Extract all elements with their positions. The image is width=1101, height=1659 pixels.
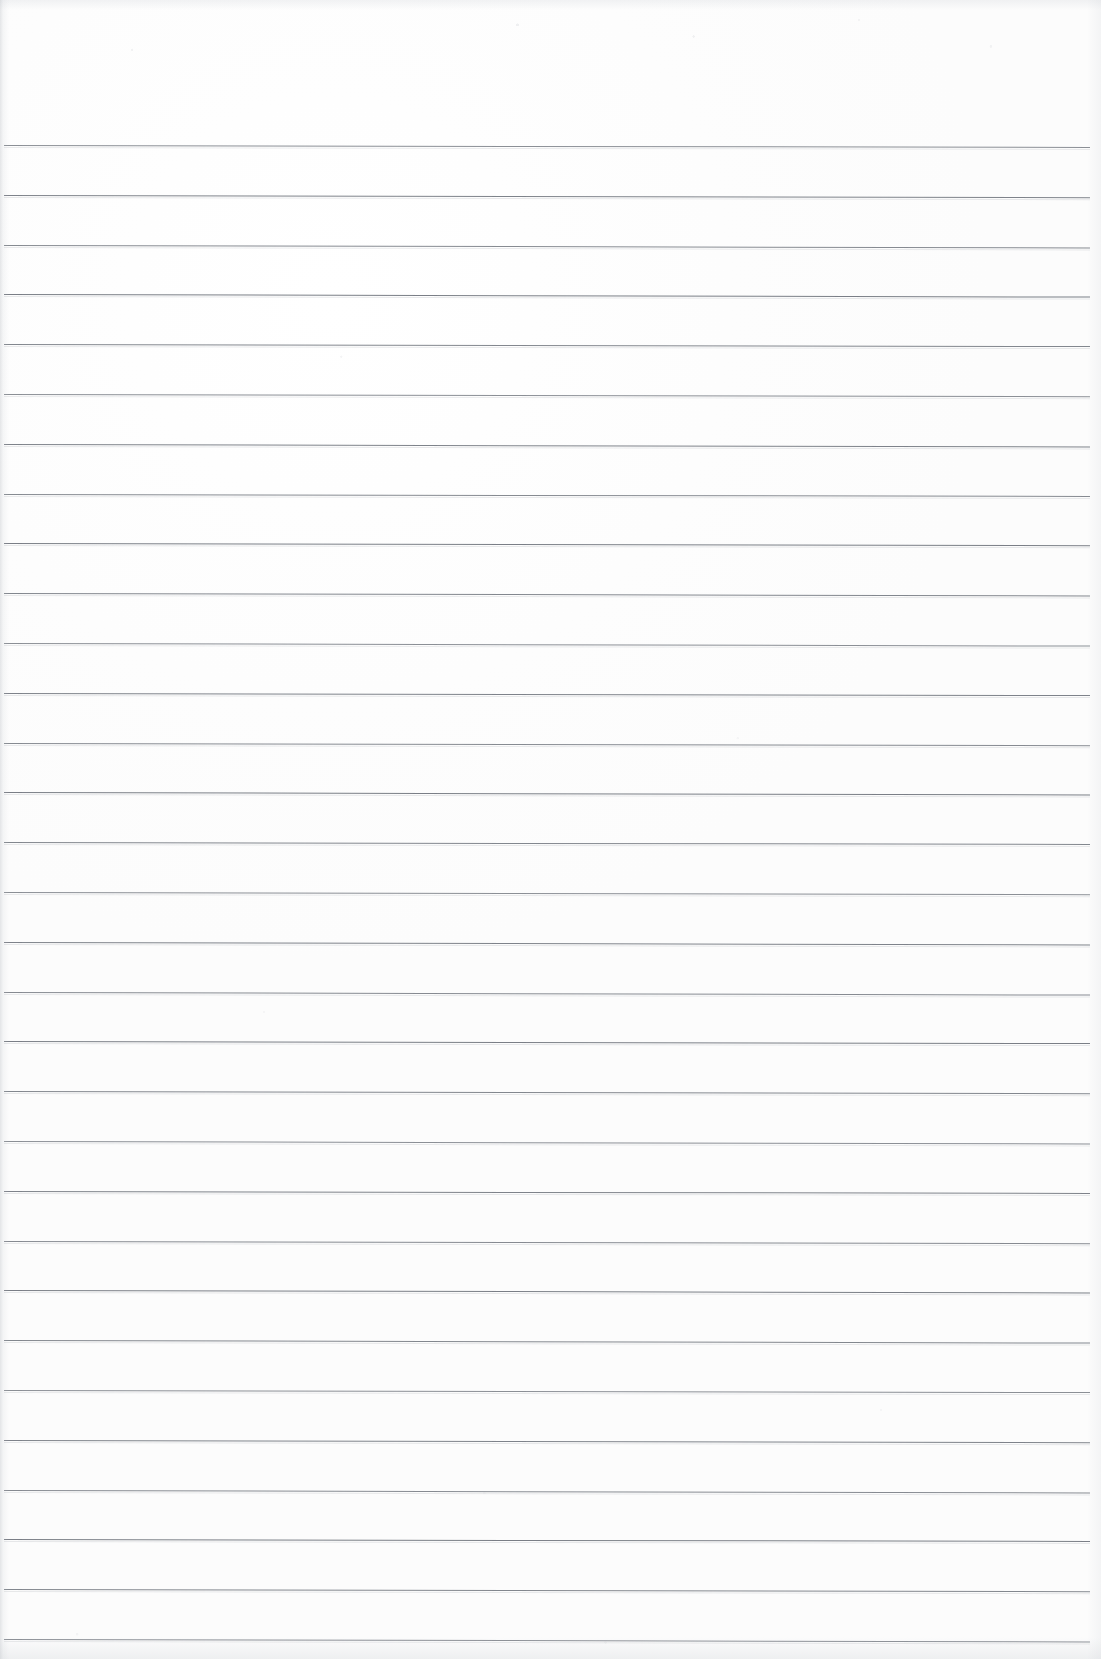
ruled-line [4,145,1090,148]
ruled-line [4,792,1090,796]
ruled-line [4,942,1090,945]
ruled-line [4,394,1090,397]
ruled-line [4,992,1090,996]
ruled-line [4,1390,1090,1393]
ruled-line [4,1639,1090,1642]
ruled-line [4,1241,1090,1244]
ruled-line [4,1091,1090,1094]
scanned-page [0,0,1101,1659]
ruled-line [4,294,1090,298]
ruled-line [4,245,1090,248]
ruled-line [4,743,1090,746]
ruled-line [4,195,1090,198]
ruled-line [4,344,1090,347]
ruled-line [4,494,1090,497]
ruled-line [4,1290,1090,1293]
ruled-line [4,593,1090,596]
ruled-line [4,543,1090,546]
ruled-lines-group [0,0,1101,1659]
ruled-line [4,1191,1090,1194]
ruled-line [4,842,1090,845]
ruled-line [4,1539,1090,1542]
ruled-line [4,892,1090,895]
ruled-line [4,444,1090,448]
ruled-line [4,643,1090,647]
ruled-line [4,693,1090,696]
ruled-line [4,1490,1090,1494]
ruled-line [4,1041,1090,1044]
ruled-line [4,1589,1090,1592]
ruled-line [4,1440,1090,1443]
ruled-line [4,1340,1090,1344]
ruled-line [4,1141,1090,1145]
